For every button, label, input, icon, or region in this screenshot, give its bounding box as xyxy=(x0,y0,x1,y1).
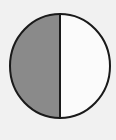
fraction-circle-diagram xyxy=(0,0,116,140)
